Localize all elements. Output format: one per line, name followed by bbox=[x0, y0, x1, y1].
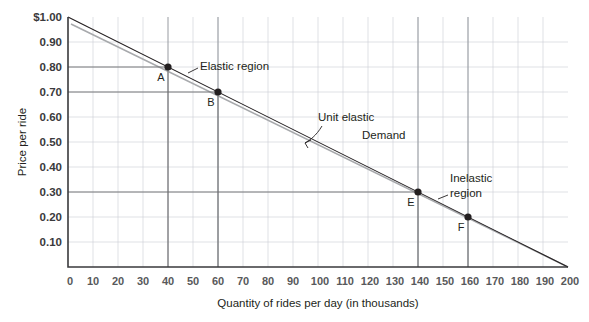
y-tick-0-20: 0.20 bbox=[40, 211, 62, 223]
demand-elasticity-chart: A B E F Elastic region Unit elastic Dema… bbox=[0, 0, 589, 322]
chart-canvas: A B E F Elastic region Unit elastic Dema… bbox=[0, 0, 589, 322]
y-axis-tick-labels: $1.00 0.90 0.80 0.70 0.60 0.50 0.40 0.30… bbox=[33, 11, 62, 248]
data-point-a[interactable] bbox=[164, 63, 171, 70]
data-point-e[interactable] bbox=[414, 188, 421, 195]
y-tick-0-50: 0.50 bbox=[40, 136, 62, 148]
x-tick-100: 100 bbox=[311, 275, 329, 287]
x-tick-190: 190 bbox=[536, 275, 554, 287]
y-tick-0-90: 0.90 bbox=[40, 36, 62, 48]
x-tick-0: 0 bbox=[67, 275, 73, 287]
y-axis-title: Price per ride bbox=[16, 108, 28, 176]
y-tick-0-40: 0.40 bbox=[40, 161, 62, 173]
x-tick-50: 50 bbox=[187, 275, 199, 287]
data-point-label-f: F bbox=[458, 221, 465, 233]
x-tick-170: 170 bbox=[486, 275, 504, 287]
annotation-demand-label: Demand bbox=[362, 129, 405, 141]
x-tick-200: 200 bbox=[561, 275, 579, 287]
x-tick-80: 80 bbox=[262, 275, 274, 287]
y-tick-0-10: 0.10 bbox=[40, 236, 62, 248]
x-tick-160: 160 bbox=[461, 275, 479, 287]
x-axis-tick-labels: 0 10 20 30 40 50 60 70 80 90 100 110 120… bbox=[67, 275, 579, 287]
x-axis-title: Quantity of rides per day (in thousands) bbox=[217, 297, 419, 309]
y-tick-1-00: $1.00 bbox=[33, 11, 62, 23]
annotation-unit-elastic: Unit elastic bbox=[318, 111, 374, 123]
data-point-f[interactable] bbox=[464, 213, 471, 220]
x-tick-70: 70 bbox=[237, 275, 249, 287]
x-tick-90: 90 bbox=[287, 275, 299, 287]
data-point-b[interactable] bbox=[214, 88, 221, 95]
data-point-label-a: A bbox=[157, 71, 165, 83]
x-tick-30: 30 bbox=[137, 275, 149, 287]
y-tick-0-60: 0.60 bbox=[40, 111, 62, 123]
x-tick-60: 60 bbox=[212, 275, 224, 287]
x-tick-20: 20 bbox=[112, 275, 124, 287]
y-tick-0-70: 0.70 bbox=[40, 86, 62, 98]
x-tick-10: 10 bbox=[87, 275, 99, 287]
data-point-label-b: B bbox=[207, 96, 214, 108]
x-tick-130: 130 bbox=[386, 275, 404, 287]
x-tick-120: 120 bbox=[361, 275, 379, 287]
annotation-elastic-region: Elastic region bbox=[200, 60, 269, 72]
y-tick-0-30: 0.30 bbox=[40, 186, 62, 198]
x-tick-40: 40 bbox=[162, 275, 174, 287]
x-tick-110: 110 bbox=[336, 275, 354, 287]
annotation-inelastic-region-line1: Inelastic bbox=[450, 172, 492, 184]
data-point-label-e: E bbox=[407, 196, 414, 208]
x-tick-150: 150 bbox=[436, 275, 454, 287]
annotation-inelastic-region-line2: region bbox=[450, 187, 482, 199]
x-tick-180: 180 bbox=[511, 275, 529, 287]
x-tick-140: 140 bbox=[411, 275, 429, 287]
y-tick-0-80: 0.80 bbox=[40, 61, 62, 73]
